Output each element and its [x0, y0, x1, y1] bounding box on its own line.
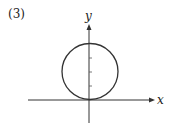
y-axis-label: y	[84, 9, 92, 23]
x-axis-arrow-icon	[149, 98, 155, 103]
y-axis-arrow-icon	[87, 24, 92, 30]
circle	[62, 44, 118, 100]
x-axis-label: x	[157, 93, 164, 107]
coordinate-plot: x y	[0, 0, 174, 133]
